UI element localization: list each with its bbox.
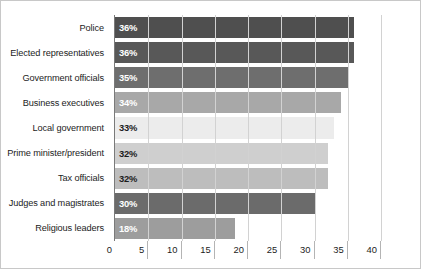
bar-row: 33% <box>115 115 401 140</box>
plot-area: 36%36%35%34%33%32%32%30%18% <box>114 15 401 241</box>
bar: 36% <box>115 42 354 63</box>
bar-value-label: 32% <box>115 148 137 159</box>
bar-row: 18% <box>115 216 401 241</box>
category-label: Elected representatives <box>1 40 109 65</box>
bar-chart: PoliceElected representativesGovernment … <box>0 0 421 269</box>
x-axis-tick <box>280 241 281 259</box>
bar-row: 35% <box>115 65 401 90</box>
x-axis-tick-label: 35 <box>333 244 346 255</box>
x-axis-tick <box>380 241 381 259</box>
category-label: Religious leaders <box>1 216 109 241</box>
bar-value-label: 18% <box>115 223 137 234</box>
bar: 32% <box>115 143 328 164</box>
bar-value-label: 35% <box>115 72 137 83</box>
category-axis-labels: PoliceElected representativesGovernment … <box>1 15 109 241</box>
bar-value-label: 32% <box>115 173 137 184</box>
category-label: Judges and magistrates <box>1 191 109 216</box>
bar-row: 36% <box>115 15 401 40</box>
bar: 35% <box>115 67 348 88</box>
x-axis: 510152025303540 <box>114 241 400 263</box>
bar: 30% <box>115 193 315 214</box>
bar-row: 32% <box>115 166 401 191</box>
x-axis-tick-label: 40 <box>367 244 380 255</box>
bar: 18% <box>115 218 235 239</box>
x-axis-tick-label: 20 <box>234 244 247 255</box>
category-label: Tax officials <box>1 166 109 191</box>
x-axis-tick-label: 30 <box>300 244 313 255</box>
x-axis-tick-label: 15 <box>200 244 213 255</box>
x-axis-origin-label: 0 <box>96 244 112 255</box>
bar-row: 36% <box>115 40 401 65</box>
x-axis-tick <box>347 241 348 259</box>
x-axis-tick <box>181 241 182 259</box>
x-axis-tick <box>314 241 315 259</box>
x-axis-tick-label: 5 <box>139 244 147 255</box>
bar-value-label: 33% <box>115 122 137 133</box>
category-label: Business executives <box>1 90 109 115</box>
bar-value-label: 30% <box>115 198 137 209</box>
bar-value-label: 36% <box>115 47 137 58</box>
bar: 34% <box>115 92 341 113</box>
bar-row: 32% <box>115 141 401 166</box>
bar: 33% <box>115 117 334 138</box>
category-label: Government officials <box>1 65 109 90</box>
bar: 36% <box>115 17 354 38</box>
bar-row: 30% <box>115 191 401 216</box>
category-label: Police <box>1 15 109 40</box>
x-axis-tick <box>214 241 215 259</box>
bar: 32% <box>115 168 328 189</box>
x-axis-tick-label: 25 <box>267 244 280 255</box>
category-label: Prime minister/president <box>1 141 109 166</box>
x-axis-tick <box>247 241 248 259</box>
category-label: Local government <box>1 115 109 140</box>
bar-row: 34% <box>115 90 401 115</box>
x-axis-tick-label: 10 <box>167 244 180 255</box>
bar-value-label: 36% <box>115 22 137 33</box>
bar-value-label: 34% <box>115 97 137 108</box>
bar-series: 36%36%35%34%33%32%32%30%18% <box>115 15 401 241</box>
x-axis-tick <box>147 241 148 259</box>
